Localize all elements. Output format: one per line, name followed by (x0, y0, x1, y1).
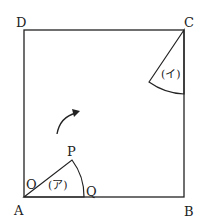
vertex-label-a: A (13, 203, 24, 218)
sector-label-b: (イ) (161, 68, 181, 81)
sector-b (149, 30, 184, 94)
arrow-head-icon (72, 109, 80, 117)
rotation-arc (57, 113, 76, 134)
vertex-label-b: B (184, 204, 194, 219)
geometry-diagram: A B C D P Q O (ア) (イ) (0, 0, 206, 221)
sector-label-a: (ア) (48, 179, 68, 192)
vertex-label-d: D (16, 15, 26, 30)
vertex-label-c: C (184, 15, 194, 30)
square-abcd (24, 30, 184, 197)
point-label-q: Q (86, 184, 97, 199)
point-label-o: O (26, 177, 37, 192)
point-label-p: P (67, 144, 76, 159)
